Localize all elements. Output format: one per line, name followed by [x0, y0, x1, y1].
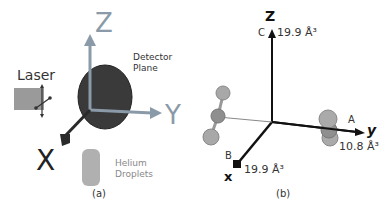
label-c: C — [258, 27, 265, 38]
x-axis-label-b: x — [224, 169, 232, 184]
detector-label-line2: Plane — [133, 63, 158, 73]
atom — [203, 129, 219, 145]
laser-beam-block — [14, 88, 44, 110]
x-axis-label-a: X — [36, 144, 55, 177]
label-a: A — [348, 114, 355, 125]
panel-b-caption: (b) — [276, 188, 290, 199]
atom — [319, 110, 337, 128]
value-b: 19.9 Å³ — [244, 163, 284, 176]
value-c: 19.9 Å³ — [277, 26, 317, 39]
detector-plane-disc — [78, 65, 132, 129]
diagram-graphics — [0, 0, 390, 213]
helium-label-line2: Droplets — [115, 169, 153, 179]
helium-droplets-jet — [82, 149, 100, 186]
atom — [216, 86, 230, 100]
z-arrow-icon-b — [268, 29, 276, 38]
x-axis-end-marker — [233, 160, 241, 168]
z-axis-label-a: Z — [95, 8, 113, 38]
y-axis-label-a: Y — [165, 100, 181, 130]
y-axis-label-b: y — [367, 122, 376, 138]
value-a: 10.8 Å³ — [339, 140, 379, 153]
x-arrow-icon — [60, 134, 70, 146]
laser-label: Laser — [17, 67, 55, 83]
helium-label-line1: Helium — [115, 158, 147, 168]
detector-label-line1: Detector — [133, 52, 172, 62]
panel-a-caption: (a) — [92, 188, 106, 199]
atom — [211, 109, 225, 123]
z-axis-label-b: Z — [265, 8, 275, 24]
y-arrow-icon — [150, 107, 162, 119]
label-b: B — [225, 150, 232, 161]
